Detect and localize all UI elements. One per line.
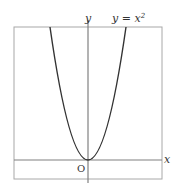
- x-axis-label: x: [164, 153, 171, 166]
- y-axis-label: y: [84, 12, 92, 25]
- curve-label: y = x2: [111, 12, 146, 25]
- origin-label: O: [77, 163, 85, 174]
- parabola-diagram: y y = x2 x O: [0, 0, 178, 193]
